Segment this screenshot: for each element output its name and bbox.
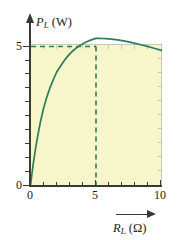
- x-tick-2: [56, 182, 57, 186]
- y-tick-1p5: [25, 143, 30, 144]
- x-tick-10: [160, 180, 161, 186]
- x-tick-label-10: 10: [150, 188, 170, 203]
- y-axis-title: PL (W): [36, 15, 72, 30]
- x-tick-3: [69, 182, 70, 186]
- y-tick-5: [23, 46, 30, 47]
- y-axis-unit: (W): [52, 15, 72, 29]
- y-tick-3: [25, 101, 30, 102]
- x-tick-8: [134, 182, 135, 186]
- curve-overlay: [0, 0, 182, 240]
- x-tick-4: [82, 182, 83, 186]
- x-tick-6: [108, 182, 109, 186]
- y-tick-4: [25, 73, 30, 74]
- x-tick-7: [121, 182, 122, 186]
- x-axis-subscript: L: [121, 226, 126, 236]
- y-tick-label-0: 0: [6, 178, 22, 193]
- y-axis-arrow-icon: [26, 13, 34, 23]
- y-tick-0: [23, 185, 30, 186]
- x-axis-title: RL (Ω): [113, 221, 146, 236]
- x-axis-symbol: R: [113, 221, 121, 235]
- y-tick-4p5: [25, 60, 30, 61]
- x-axis-unit: (Ω): [129, 221, 147, 235]
- power-transfer-chart: 0 5 0 5 10 PL (W) RL (Ω): [0, 0, 182, 240]
- y-tick-3p5: [25, 87, 30, 88]
- x-tick-0: [30, 180, 31, 186]
- x-tick-5: [95, 180, 96, 186]
- y-axis-symbol: P: [36, 15, 44, 29]
- x-tick-label-5: 5: [87, 188, 103, 203]
- y-tick-2p5: [25, 115, 30, 116]
- y-tick-label-5: 5: [6, 39, 22, 54]
- x-axis-direction-arrow-icon: [116, 210, 156, 219]
- x-tick-label-0: 0: [22, 188, 38, 203]
- y-tick-1: [25, 157, 30, 158]
- x-tick-9: [147, 182, 148, 186]
- y-axis-subscript: L: [44, 20, 49, 30]
- x-tick-1: [43, 182, 44, 186]
- y-tick-2: [25, 129, 30, 130]
- y-tick-0p5: [25, 171, 30, 172]
